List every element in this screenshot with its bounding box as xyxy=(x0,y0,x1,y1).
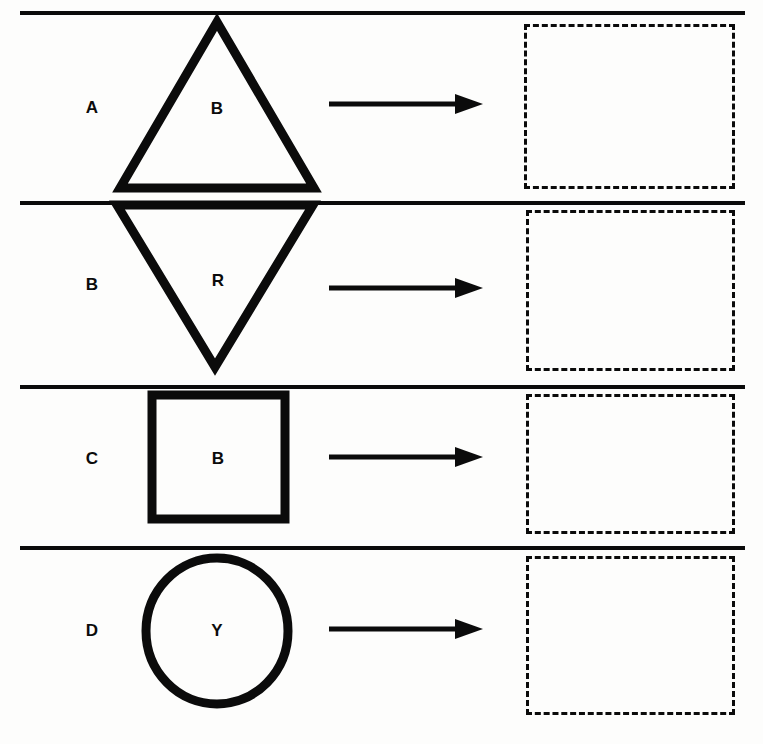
shape-code-letter: B xyxy=(198,450,238,467)
shape-code-letter: B xyxy=(197,100,237,117)
answer-box-a[interactable] xyxy=(524,24,735,189)
transform-arrow-icon xyxy=(329,617,485,641)
row-label-b: B xyxy=(72,276,112,293)
transform-arrow-icon xyxy=(329,445,485,469)
transform-arrow-icon xyxy=(329,276,485,300)
answer-box-d[interactable] xyxy=(526,556,735,715)
transform-arrow-icon xyxy=(329,92,485,116)
shape-code-letter: R xyxy=(198,272,238,289)
divider-3 xyxy=(20,546,745,550)
row-label-a: A xyxy=(72,99,112,116)
divider-2 xyxy=(20,385,745,389)
worksheet-page: ABBRCBDY xyxy=(0,0,763,744)
answer-box-c[interactable] xyxy=(526,394,735,534)
row-label-d: D xyxy=(72,622,112,639)
shape-code-letter: Y xyxy=(197,622,237,639)
answer-box-b[interactable] xyxy=(526,210,735,371)
row-label-c: C xyxy=(72,450,112,467)
